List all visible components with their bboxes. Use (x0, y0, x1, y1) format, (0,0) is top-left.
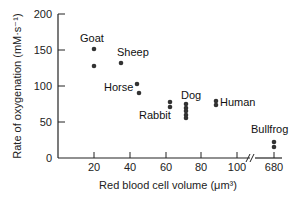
x-tick-20: 20 (88, 161, 100, 173)
label-dog: Dog (181, 89, 201, 101)
x-tick-80: 80 (195, 161, 207, 173)
point-rabbit (168, 100, 173, 105)
axis-break-mark-2 (250, 154, 254, 162)
label-horse: Horse (104, 81, 133, 93)
point-dog (184, 102, 189, 107)
point-bullfrog (272, 145, 277, 150)
label-rabbit: Rabbit (139, 109, 171, 121)
point-human (214, 99, 219, 104)
point-dog (184, 109, 189, 114)
label-goat: Goat (80, 32, 104, 44)
y-axis: 200 150 100 50 0 Rate of oxygenation (mM… (11, 8, 65, 164)
y-tick-0: 0 (46, 152, 52, 164)
label-sheep: Sheep (117, 46, 149, 58)
point-goat (92, 47, 97, 52)
y-tick-100: 100 (34, 80, 52, 92)
x-tick-100: 100 (228, 161, 246, 173)
y-tick-200: 200 (34, 8, 52, 20)
y-tick-50: 50 (40, 116, 52, 128)
y-tick-150: 150 (34, 44, 52, 56)
point-sheep (119, 61, 124, 66)
point-human (214, 103, 219, 108)
y-axis-title: Rate of oxygenation (mM·s⁻¹) (11, 13, 23, 158)
x-axis-title: Red blood cell volume (μm³) (99, 179, 237, 191)
point-horse (135, 82, 140, 87)
label-human: Human (220, 96, 255, 108)
point-bullfrog (272, 140, 277, 145)
point-labels: Goat Sheep Horse Rabbit Dog Human Bullfr… (80, 32, 288, 135)
label-bullfrog: Bullfrog (251, 123, 288, 135)
x-tick-680: 680 (265, 161, 283, 173)
point-dog (184, 116, 189, 121)
x-axis: 20 40 60 80 100 680 Red blood cell volum… (58, 152, 283, 191)
point-horse (137, 91, 142, 96)
point-goat (92, 64, 97, 69)
x-tick-40: 40 (124, 161, 136, 173)
scatter-chart: 200 150 100 50 0 Rate of oxygenation (mM… (0, 0, 303, 204)
x-tick-60: 60 (160, 161, 172, 173)
